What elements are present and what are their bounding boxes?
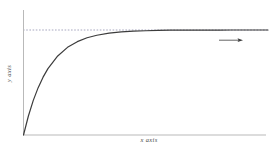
y-axis-label-text: y axis: [5, 65, 12, 82]
y-axis-label: y axis: [5, 54, 12, 94]
plateau-arrow-annotation: [219, 38, 243, 42]
chart-figure: x axis y axis: [0, 0, 278, 156]
x-axis-label-text: x axis: [140, 136, 157, 143]
curve-polyline: [24, 30, 269, 135]
chart-plot-area: [0, 0, 278, 156]
x-axis-label: x axis: [0, 136, 278, 143]
